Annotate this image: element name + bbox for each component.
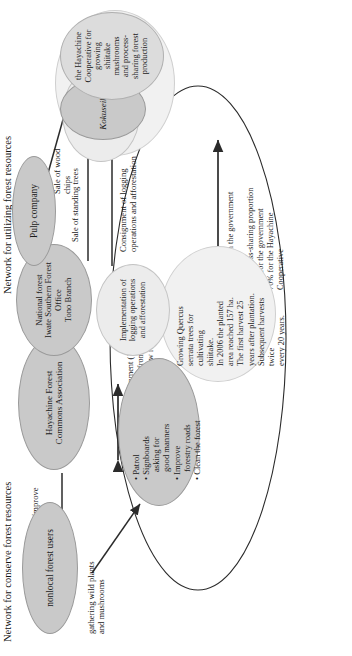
quercus-line: In 2006 the planted: [216, 248, 226, 366]
quercus-line: area reached 157 ha.: [226, 248, 236, 366]
quercus-line: twice: [267, 248, 277, 366]
forest-management-activity-list: • Patrol • Signboards asking for good ma…: [131, 360, 202, 480]
activity-item: asking for: [151, 360, 161, 480]
quercus-line: serrata trees for: [186, 248, 196, 366]
node-pulp-company-label: Pulp company: [27, 182, 42, 240]
heading-conserve: Network for conserve forest resources: [2, 482, 13, 642]
node-hayachine-commons-association[interactable]: Hayachine Forest Commons Association: [18, 336, 90, 470]
quercus-line: years after plantation.: [247, 248, 257, 366]
quercus-line: The first harvest 25: [236, 248, 246, 366]
activity-item: • Clean the forest: [192, 360, 202, 480]
node-nonlocal-forest-users-label: nonlocal forest users: [43, 527, 58, 609]
activity-item: • Improve: [172, 360, 182, 480]
diagram-canvas: Kokuseikyo the Hayachine Cooperative for…: [0, 0, 352, 656]
activity-item: forestry roads: [182, 360, 192, 480]
node-hayachine-commons-association-label: Hayachine Forest Commons Association: [42, 360, 67, 447]
quercus-line: Growing Quercus: [176, 248, 186, 366]
activity-item: • Patrol: [131, 360, 141, 480]
node-hayachine-cooperative-label: the Hayachine Cooperative for growing sh…: [72, 28, 151, 85]
activity-item: • Signboards: [141, 360, 151, 480]
node-implementation-logging[interactable]: Implementation of logging operations and…: [96, 264, 170, 356]
node-hayachine-cooperative[interactable]: the Hayachine Cooperative for growing sh…: [60, 12, 164, 100]
quercus-line: shiitake.: [206, 248, 216, 366]
quercus-line: Subsequent harvests: [257, 248, 267, 366]
activity-item: good manners: [161, 360, 171, 480]
node-national-forest-office-label: National forest Iwate Southern Forest Of…: [33, 260, 76, 340]
quercus-plantation-text: Growing Quercus serrata trees for cultiv…: [176, 248, 287, 366]
label-gathering: gathering wild plants and mushrooms: [86, 561, 107, 634]
figure-stage: Kokuseikyo the Hayachine Cooperative for…: [0, 0, 352, 656]
node-implementation-logging-label: Implementation of logging operations and…: [117, 277, 149, 344]
quercus-line: every 20 years.: [277, 248, 287, 366]
label-consignment: Consignment of logging operations and af…: [118, 156, 139, 252]
node-nonlocal-forest-users[interactable]: nonlocal forest users: [22, 502, 78, 634]
node-pulp-company[interactable]: Pulp company: [12, 156, 56, 266]
label-sale-wood-chips: Sale of wood chips: [52, 149, 73, 194]
quercus-line: cultivating: [196, 248, 206, 366]
